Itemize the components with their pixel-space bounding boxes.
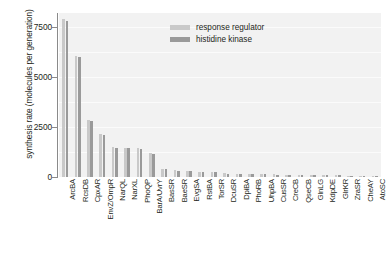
x-tick-label: ZraSR [353,179,362,200]
x-tick-label: EnvZ/OmpR [106,179,115,219]
bar [174,170,177,177]
x-axis-tick-labels: ArcBARcsDBCpxAREnvZ/OmpRNarQLNarXLPhoQPB… [59,179,381,265]
bar [273,174,276,177]
x-tick-label: GlrKR [341,179,350,199]
bar [211,172,214,177]
y-tick-label: 5000 [10,72,52,82]
bar [335,175,338,177]
x-tick-label: TorSR [217,179,226,199]
bar [186,171,189,177]
bar [161,169,164,177]
bar [227,174,230,178]
bar [99,134,102,177]
bar [103,135,106,177]
bar [260,174,263,177]
bar-pair [319,13,331,177]
bar [301,175,304,177]
bar [140,149,143,177]
bar-pair [133,13,145,177]
bar [375,176,378,177]
legend-item-histidine-kinase: histidine kinase [170,34,264,45]
bar [165,169,168,177]
bar-pair [121,13,133,177]
bar [177,171,180,177]
x-tick-label: RcsDB [81,179,90,202]
bar-pair [59,13,71,177]
bar [152,154,155,177]
x-tick-label: KdpDE [328,179,337,202]
bar [313,175,316,177]
bar-pair [96,13,108,177]
bar [87,120,90,177]
bar [239,174,242,177]
x-tick-label: ArcBA [68,179,77,200]
bar [198,172,201,177]
x-tick-label: NarQL [118,179,127,201]
bar-pair [331,13,343,177]
bar [326,175,329,177]
x-tick-label: DpiBA [242,179,251,200]
bar [62,19,65,177]
bar-pair [344,13,356,177]
x-tick-label: CheAY [366,179,375,202]
bar-pair [109,13,121,177]
legend-swatch-icon [170,37,190,42]
bar [90,121,93,177]
y-axis-spine [57,13,58,178]
x-tick-label: BarA/UvrY [155,179,164,214]
bar [350,176,353,177]
bar-pair [146,13,158,177]
bar [75,56,78,177]
x-tick-label: GlnLG [316,179,325,200]
x-tick-label: DcuSR [229,179,238,202]
chart-legend: response regulator histidine kinase [170,22,264,46]
bar [202,172,205,177]
bar [115,148,118,177]
legend-item-response-regulator: response regulator [170,22,264,33]
bar [288,175,291,177]
bar [214,172,217,177]
x-tick-label: PhoQP [143,179,152,203]
bar-pair [270,13,282,177]
bar [223,173,226,177]
x-tick-label: EvgSA [192,179,201,201]
x-tick-label: QseCB [304,179,313,203]
bar [127,148,130,177]
bar-pair [84,13,96,177]
y-tick-mark [52,27,57,28]
bar [338,175,341,177]
x-tick-label: CusSR [279,179,288,202]
y-tick-label: 7500 [10,22,52,32]
bar [363,176,366,177]
x-tick-label: NarXL [130,179,139,200]
bar [285,175,288,177]
bar [322,175,325,177]
bar [359,176,362,177]
x-tick-label: PhoRB [254,179,263,202]
bar-pair [294,13,306,177]
bar [124,148,127,177]
bar [372,176,375,177]
bar [137,148,140,177]
y-tick-mark [52,177,57,178]
y-tick-label: 0 [10,172,52,182]
legend-label: response regulator [196,23,264,32]
bar [112,147,115,177]
bar [66,21,69,177]
bar [248,174,251,177]
bar [310,175,313,177]
x-tick-label: CpxAR [93,179,102,202]
bar-pair [369,13,381,177]
bar [251,174,254,177]
bar [149,153,152,177]
bar [236,174,239,177]
y-tick-mark [52,77,57,78]
bar-pair [71,13,83,177]
x-tick-label: BaeSR [180,179,189,202]
x-tick-label: BasSR [167,179,176,202]
legend-label: histidine kinase [196,35,252,44]
bar-pair [307,13,319,177]
y-axis-tick-labels: 0250050007500 [10,0,52,265]
bar-pair [282,13,294,177]
